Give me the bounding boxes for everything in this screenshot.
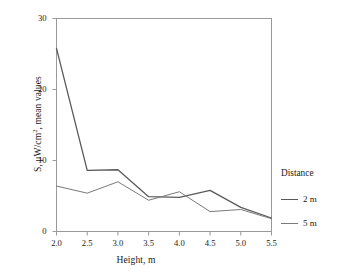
data-series-group: [57, 48, 272, 218]
legend-swatch-line-icon: [281, 199, 298, 200]
x-tick-label: 3.0: [105, 238, 131, 248]
legend-items: 2 m5 m: [281, 190, 317, 232]
y-axis-title: S, μW/cm2, mean values: [31, 29, 43, 219]
x-tick-label: 5.5: [259, 238, 285, 248]
x-tick-label: 4.0: [166, 238, 192, 248]
y-tick-label: 0: [25, 226, 47, 236]
series-line-5-m: [57, 182, 272, 219]
x-axis-title: Height, m: [0, 255, 272, 265]
chart-figure: Height, m S, μW/cm2, mean values 2.02.53…: [0, 0, 340, 276]
x-tick-label: 2.0: [44, 238, 70, 248]
legend-title: Distance: [281, 168, 317, 178]
y-tick-label: 20: [25, 84, 47, 94]
x-axis-ticks: [57, 232, 272, 236]
x-tick-label: 4.5: [197, 238, 223, 248]
x-tick-label: 3.5: [136, 238, 162, 248]
plot-frame: [57, 19, 272, 232]
legend-item-label: 2 m: [303, 194, 317, 204]
x-tick-label: 5.0: [228, 238, 254, 248]
legend: Distance 2 m5 m: [281, 168, 317, 238]
legend-item-label: 5 m: [303, 218, 317, 228]
legend-item-5-m[interactable]: 5 m: [281, 214, 317, 232]
y-tick-label: 10: [25, 155, 47, 165]
legend-item-2-m[interactable]: 2 m: [281, 190, 317, 208]
y-axis-ticks: [53, 19, 57, 232]
y-tick-label: 30: [25, 13, 47, 23]
x-tick-label: 2.5: [74, 238, 100, 248]
legend-swatch-line-icon: [281, 223, 298, 224]
